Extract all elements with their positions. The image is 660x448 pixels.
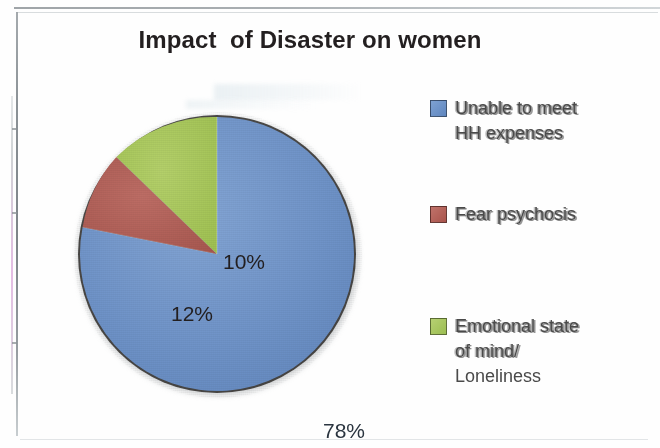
chart-title: Impact of Disaster on women bbox=[0, 26, 620, 54]
pie-chart-svg bbox=[74, 112, 362, 398]
legend-label-line1: Fear psychosis bbox=[455, 204, 576, 224]
legend-swatch-red-icon bbox=[430, 206, 447, 223]
page-frame-left-outer bbox=[11, 96, 13, 394]
binding-tick-mark bbox=[12, 128, 17, 130]
scan-smudge-artifact-2 bbox=[186, 100, 316, 109]
pie-slice-label-red: 12% bbox=[171, 302, 213, 326]
legend-swatch-blue-icon bbox=[430, 100, 447, 117]
binding-tick-mark bbox=[12, 212, 17, 214]
legend-item-unable-to-meet-hh-expenses[interactable]: Unable to meet HH expenses bbox=[430, 96, 577, 146]
pie-slice-label-blue: 78% bbox=[323, 419, 365, 443]
legend-label-line3: Loneliness bbox=[455, 366, 541, 386]
legend-swatch-green-icon bbox=[430, 318, 447, 335]
page-frame-left-border bbox=[16, 12, 18, 436]
pie-slice-label-green: 10% bbox=[223, 250, 265, 274]
chart-page: Impact of Disaster on women bbox=[0, 0, 660, 448]
legend-item-fear-psychosis[interactable]: Fear psychosis bbox=[430, 202, 576, 227]
scan-smudge-artifact bbox=[214, 84, 364, 100]
binding-tick-mark bbox=[12, 342, 17, 344]
legend-label-line1: Unable to meet bbox=[455, 98, 577, 118]
pie-chart: 10% 12% 78% bbox=[74, 112, 362, 398]
legend-label-line2: HH expenses bbox=[455, 123, 563, 143]
legend-label-line1: Emotional state bbox=[455, 316, 579, 336]
legend-label-line2: of mind/ bbox=[455, 341, 519, 361]
page-frame-top-inner bbox=[16, 12, 658, 13]
page-frame-top-border bbox=[14, 7, 660, 9]
legend-item-emotional-state-of-mind-loneliness[interactable]: Emotional state of mind/ Loneliness bbox=[430, 314, 579, 389]
